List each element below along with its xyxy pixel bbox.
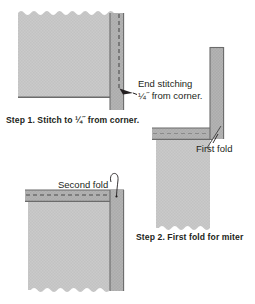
second-fold-leader-dot	[115, 195, 117, 197]
caption-step-2: Step 2. First fold for miter	[136, 232, 243, 243]
diagram-second-fold	[25, 173, 124, 292]
horizontal-binding-strip-second-fold	[25, 190, 110, 202]
caption-step-1: Step 1. Stitch to ¼˝ from corner.	[6, 115, 139, 126]
annotation-end-stitching-line1: End stitching	[138, 78, 192, 89]
annotation-end-stitching: End stitching ¼˝ from corner.	[138, 78, 202, 102]
figure-canvas: End stitching ¼˝ from corner. Step 1. St…	[0, 0, 255, 304]
annotation-end-stitching-line2: ¼˝ from corner.	[138, 90, 202, 102]
vertical-binding-strip-step2	[210, 47, 224, 139]
annotation-first-fold: First fold	[196, 143, 232, 155]
arrow-shaft-step1	[133, 93, 137, 95]
diagram-step-2	[152, 47, 224, 230]
annotation-second-fold: Second fold	[58, 179, 108, 191]
vertical-binding-strip-second-fold	[110, 190, 124, 291]
binding-strip-step1	[110, 13, 124, 110]
diagram-step-1	[18, 11, 137, 110]
quilt-panel-second-fold	[28, 201, 110, 292]
quilt-panel-step1	[18, 11, 114, 98]
